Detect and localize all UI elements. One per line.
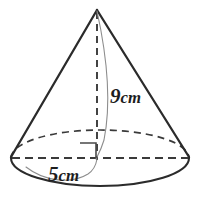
left-slant-edge [11,10,97,157]
cone-drawing-canvas: 9cm 5cm [0,0,202,209]
height-label-unit: cm [121,88,142,107]
cone-diagram-figure: 9cm 5cm [0,0,202,209]
base-front-arc [11,158,189,186]
radius-label-unit: cm [59,166,80,185]
height-label: 9cm [110,84,141,108]
radius-label-value: 5 [48,162,59,186]
base-back-arc [11,130,189,158]
radius-label: 5cm [48,162,79,186]
right-angle-marker [80,143,96,158]
height-label-value: 9 [110,84,121,108]
